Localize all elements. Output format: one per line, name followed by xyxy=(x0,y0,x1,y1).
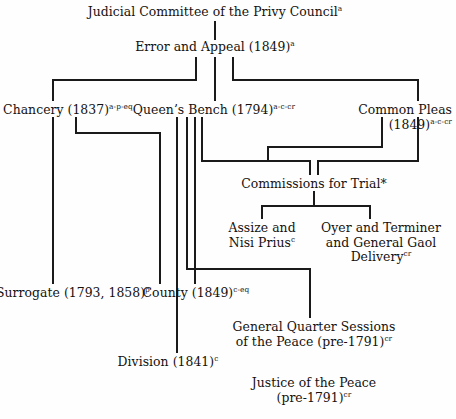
node-label-text: of the Peace (pre-1791) xyxy=(236,334,385,349)
node-label-line: Error and Appeal (1849)a xyxy=(135,40,295,55)
node-label-text: Surrogate (1793, 1858) xyxy=(0,285,145,300)
node-label-text: Oyer and Terminer xyxy=(321,220,441,235)
node-label-line: Surrogate (1793, 1858)p xyxy=(0,286,150,301)
node-division: Division (1841)c xyxy=(118,355,219,370)
node-label-text: (1849) xyxy=(389,117,431,132)
node-justice-of-the-peace: Justice of the Peace(pre-1791)cr xyxy=(252,376,376,405)
node-label-text: (pre-1791) xyxy=(277,390,344,405)
node-surrogate: Surrogate (1793, 1858)p xyxy=(0,286,150,301)
node-label-superscript: cr xyxy=(344,389,352,398)
node-label-line: Common Pleas xyxy=(358,103,452,118)
node-label-superscript: cr xyxy=(403,249,411,258)
node-label-text: County (1849) xyxy=(143,285,234,300)
node-label-line: Oyer and Terminer xyxy=(321,221,441,236)
node-judicial-committee-of-the-privy-council: Judicial Committee of the Privy Councila xyxy=(88,5,343,20)
node-label-line: Assize and xyxy=(228,221,295,236)
node-label-text: Common Pleas xyxy=(358,102,452,117)
node-label-superscript: a-c-cr xyxy=(430,116,452,125)
node-label-line: (pre-1791)cr xyxy=(252,391,376,406)
node-label-superscript: a-p-eq xyxy=(109,102,133,111)
node-label-line: Queen’s Bench (1794)a-c-cr xyxy=(133,103,295,118)
node-label-line: County (1849)c-eq xyxy=(143,286,250,301)
node-label-superscript: c xyxy=(291,234,295,243)
node-label-text: Delivery xyxy=(351,249,404,264)
node-label-line: Commissions for Trial* xyxy=(241,177,387,192)
node-label-text: Queen’s Bench (1794) xyxy=(133,102,274,117)
node-label-text: Chancery (1837) xyxy=(3,102,109,117)
node-label-line: (1849)a-c-cr xyxy=(358,118,452,133)
node-error-and-appeal: Error and Appeal (1849)a xyxy=(135,40,295,55)
node-label-line: Chancery (1837)a-p-eq xyxy=(3,103,133,118)
node-common-pleas: Common Pleas(1849)a-c-cr xyxy=(358,103,452,132)
node-label-line: General Quarter Sessions xyxy=(233,320,396,335)
node-chancery: Chancery (1837)a-p-eq xyxy=(3,103,133,118)
node-label-line: Judicial Committee of the Privy Councila xyxy=(88,5,343,20)
node-label-text: and General Gaol xyxy=(326,235,437,250)
node-label-text: General Quarter Sessions xyxy=(233,319,396,334)
node-general-quarter-sessions-of-the-peace: General Quarter Sessionsof the Peace (pr… xyxy=(233,320,396,349)
node-label-line: and General Gaol xyxy=(321,236,441,251)
court-hierarchy-diagram: Judicial Committee of the Privy Councila… xyxy=(0,0,456,419)
node-label-text: Justice of the Peace xyxy=(252,375,376,390)
connector-lines xyxy=(0,0,456,419)
node-county: County (1849)c-eq xyxy=(143,286,250,301)
node-queens-bench: Queen’s Bench (1794)a-c-cr xyxy=(133,103,295,118)
node-commissions-for-trial: Commissions for Trial* xyxy=(241,177,387,192)
node-label-line: of the Peace (pre-1791)cr xyxy=(233,335,396,350)
node-label-text: Nisi Prius xyxy=(229,235,291,250)
node-label-text: Judicial Committee of the Privy Council xyxy=(88,4,338,19)
node-label-superscript: a xyxy=(338,4,343,13)
node-label-superscript: cr xyxy=(384,333,392,342)
node-label-text: Commissions for Trial* xyxy=(241,176,387,191)
node-label-superscript: c xyxy=(214,354,218,363)
node-label-text: Error and Appeal (1849) xyxy=(135,39,290,54)
node-oyer-and-terminer-and-general-gaol-delivery: Oyer and Terminerand General GaolDeliver… xyxy=(321,221,441,265)
node-label-superscript: a xyxy=(290,39,295,48)
node-label-line: Division (1841)c xyxy=(118,355,219,370)
node-label-superscript: a-c-cr xyxy=(273,102,295,111)
node-label-line: Nisi Priusc xyxy=(228,236,295,251)
node-assize-and-nisi-prius: Assize andNisi Priusc xyxy=(228,221,295,250)
node-label-text: Assize and xyxy=(228,220,295,235)
node-label-line: Justice of the Peace xyxy=(252,376,376,391)
node-label-text: Division (1841) xyxy=(118,354,215,369)
node-label-line: Deliverycr xyxy=(321,250,441,265)
node-label-superscript: c-eq xyxy=(233,285,249,294)
